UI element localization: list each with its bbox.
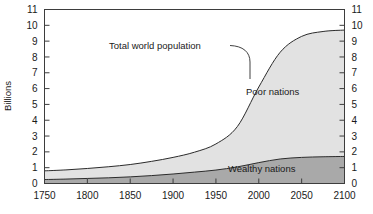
y-axis-right-tick-label: 1 [352, 162, 358, 173]
y-axis-right-tick-label: 9 [352, 36, 358, 47]
y-axis-right-tick-label: 6 [352, 83, 358, 94]
y-axis-right-tick-label: 11 [352, 4, 363, 15]
x-axis-tick-label: 1900 [162, 190, 185, 201]
y-axis-title: Billions [2, 81, 13, 111]
x-axis-tick-label: 1750 [33, 190, 56, 201]
y-axis-right-tick-label: 3 [352, 131, 358, 142]
y-axis-left-tick-label: 8 [32, 52, 38, 63]
y-axis-left-tick-label: 5 [32, 99, 38, 110]
population-area-chart: 01234567891011 01234567891011 1750180018… [0, 0, 373, 214]
y-axis-left-tick-label: 3 [32, 131, 38, 142]
y-axis-left-tick-label: 1 [32, 162, 38, 173]
x-axis-tick-label: 1950 [205, 190, 228, 201]
y-axis-left-tick-label: 6 [32, 83, 38, 94]
poor-nations-label: Poor nations [246, 86, 300, 97]
x-axis-tick-label: 1800 [76, 190, 99, 201]
y-axis-left-tick-label: 0 [32, 178, 38, 189]
y-axis-left-tick-label: 9 [32, 36, 38, 47]
wealthy-nations-label: Wealthy nations [228, 163, 296, 174]
x-axis-tick-label: 2100 [333, 190, 356, 201]
y-axis-left-tick-label: 4 [32, 115, 38, 126]
x-axis-tick-label: 2050 [291, 190, 314, 201]
total-world-population-annotation-label: Total world population [109, 40, 201, 51]
y-axis-right-tick-label: 0 [352, 178, 358, 189]
y-axis-right-tick-label: 2 [352, 146, 358, 157]
y-axis-left-tick-label: 7 [32, 67, 38, 78]
y-axis-right-tick-label: 10 [352, 20, 364, 31]
chart-figure: 01234567891011 01234567891011 1750180018… [0, 0, 373, 214]
y-axis-right-tick-label: 7 [352, 67, 358, 78]
y-axis-right-tick-label: 8 [352, 52, 358, 63]
y-axis-left-tick-label: 11 [27, 4, 38, 15]
y-axis-left-tick-label: 2 [32, 146, 38, 157]
x-axis-tick-label: 1850 [119, 190, 142, 201]
y-axis-left-tick-label: 10 [26, 20, 38, 31]
y-axis-right-tick-label: 5 [352, 99, 358, 110]
y-axis-right-tick-label: 4 [352, 115, 358, 126]
x-axis-tick-label: 2000 [248, 190, 271, 201]
